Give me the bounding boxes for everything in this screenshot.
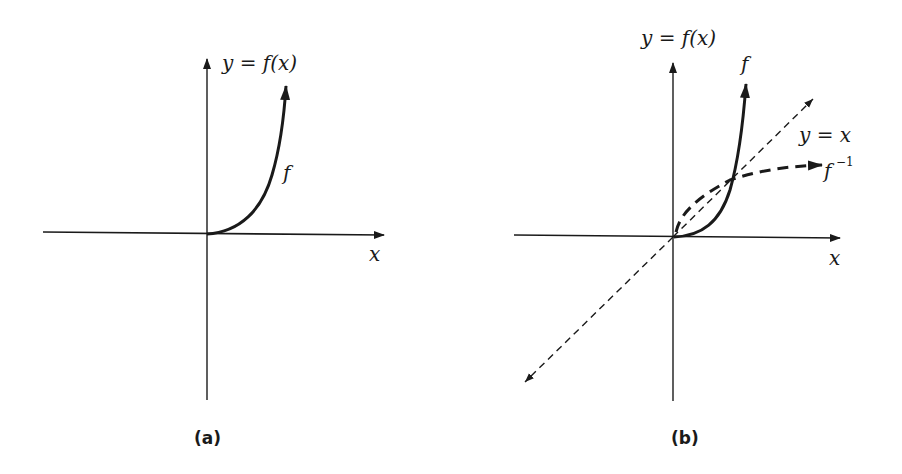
x-axis-label: x	[369, 242, 380, 266]
panel-caption: (b)	[671, 428, 699, 448]
f-inverse-label: f	[822, 159, 835, 183]
y-axis-label: y = f(x)	[221, 51, 297, 75]
x-axis-label: x	[829, 246, 840, 270]
f-curve	[207, 86, 286, 234]
identity-line-negative	[525, 237, 673, 382]
f-label: f	[739, 52, 752, 76]
y-axis-label: y = f(x)	[640, 26, 716, 50]
identity-label: y = x	[798, 123, 851, 147]
panel-a: y = f(x) f x (a)	[43, 51, 384, 448]
panel-b: y = f(x) f y = x f −1 x (b)	[514, 26, 854, 448]
figure: y = f(x) f x (a) y = f(x) f y = x f −1 x…	[0, 0, 902, 474]
panel-caption: (a)	[194, 428, 221, 448]
f-inverse-curve	[676, 165, 822, 232]
f-label: f	[281, 161, 294, 185]
f-inverse-superscript: −1	[836, 155, 854, 169]
